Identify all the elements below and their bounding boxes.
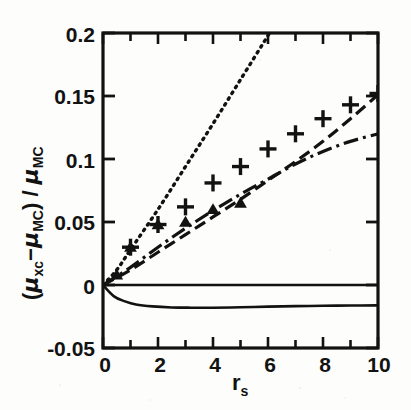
data-layer — [103, 31, 387, 307]
x-axis-title: rs — [232, 370, 249, 399]
x-tick-label: 4 — [209, 353, 221, 376]
y-tick-labels: 0.2 0.15 0.1 0.05 0 -0.05 — [47, 23, 95, 360]
y-tick-label: 0.15 — [54, 85, 95, 108]
y-tick-label: -0.05 — [47, 337, 95, 360]
plot-svg: (μxc−μMC) / μMC rs 0.2 0.15 0.1 0.05 0 -… — [0, 0, 411, 410]
x-tick-labels: 0 2 4 6 8 10 — [99, 353, 391, 376]
y-tick-label: 0.2 — [66, 23, 95, 46]
x-tick-label: 8 — [319, 353, 331, 376]
figure-container: (μxc−μMC) / μMC rs 0.2 0.15 0.1 0.05 0 -… — [0, 0, 411, 410]
y-tick-label: 0 — [83, 275, 95, 298]
y-tick-label: 0.1 — [66, 149, 96, 172]
x-tick-label: 0 — [99, 353, 111, 376]
x-tick-label: 10 — [367, 353, 390, 376]
y-axis-title: (μxc−μMC) / μMC — [18, 146, 46, 300]
svg-text:(μxc−μMC) / μMC: (μxc−μMC) / μMC — [18, 146, 46, 300]
solid-negative-curve — [103, 285, 378, 308]
y-tick-label: 0.05 — [54, 211, 95, 234]
x-tick-label: 2 — [154, 353, 166, 376]
svg-text:rs: rs — [232, 370, 249, 399]
plus-markers — [122, 85, 387, 256]
x-tick-label: 6 — [264, 353, 276, 376]
